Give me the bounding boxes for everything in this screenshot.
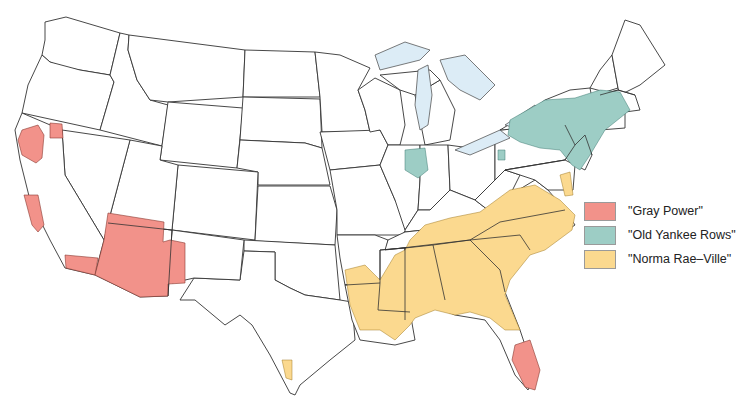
legend-swatch-norma-rae-ville — [584, 250, 616, 269]
legend-swatch-gray-power — [584, 202, 616, 221]
legend-swatch-old-yankee-rows — [584, 226, 616, 245]
legend-item-old-yankee-rows: "Old Yankee Rows" — [584, 223, 736, 247]
legend-item-norma-rae-ville: "Norma Rae–Ville" — [584, 247, 736, 271]
legend-label-norma-rae-ville: "Norma Rae–Ville" — [628, 252, 731, 266]
legend-item-gray-power: "Gray Power" — [584, 199, 736, 223]
legend-label-old-yankee-rows: "Old Yankee Rows" — [628, 228, 736, 242]
legend: "Gray Power" "Old Yankee Rows" "Norma Ra… — [584, 199, 736, 271]
state-outlines — [15, 17, 665, 395]
legend-label-gray-power: "Gray Power" — [628, 204, 703, 218]
